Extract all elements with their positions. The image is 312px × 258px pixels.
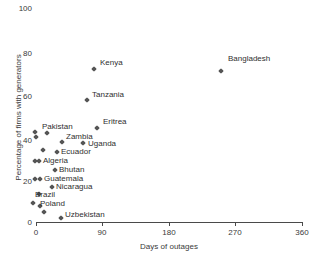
uzbekistan-point (58, 215, 64, 221)
x-tick-label: 90 (87, 228, 117, 237)
poland-point-a (30, 200, 36, 206)
tanzania-point (84, 97, 90, 103)
label-uzbekistan: Uzbekistan (65, 210, 105, 219)
label-bangladesh: Bangladesh (228, 54, 270, 63)
pakistan-point-b (33, 134, 39, 140)
label-nicaragua: Nicaragua (56, 182, 92, 191)
label-kenya: Kenya (100, 58, 123, 67)
y-tick-label: 0 (10, 218, 32, 227)
label-pakistan: Pakistan (42, 122, 73, 131)
x-tick-mark (102, 222, 103, 226)
y-axis-title: Percentage of firms with generators (14, 33, 23, 203)
bhutan-point (52, 167, 58, 173)
guatemala-point-b (37, 176, 43, 182)
uganda-point (80, 140, 86, 146)
label-eritrea: Eritrea (103, 117, 127, 126)
label-brazil: Brazil (35, 190, 55, 199)
y-tick-label: 100 (10, 4, 32, 13)
bangladesh-point (218, 68, 224, 74)
eritrea-point (94, 125, 100, 131)
label-algeria: Algeria (43, 156, 68, 165)
zambia-point (59, 139, 65, 145)
label-uganda: Uganda (88, 139, 116, 148)
x-tick-mark (235, 222, 236, 226)
x-tick-mark (169, 222, 170, 226)
x-tick-label: 180 (154, 228, 184, 237)
scatter-chart: 100806040200 090180270360 BangladeshKeny… (0, 0, 312, 258)
cluster-point-a (40, 147, 46, 153)
x-tick-mark (36, 222, 37, 226)
x-tick-label: 270 (220, 228, 250, 237)
label-bhutan: Bhutan (59, 165, 84, 174)
kenya-point (91, 66, 97, 72)
x-tick-label: 0 (21, 228, 51, 237)
ecuador-point (54, 149, 60, 155)
label-tanzania: Tanzania (92, 90, 124, 99)
algeria-point-b (36, 158, 42, 164)
x-tick-mark (302, 222, 303, 226)
x-tick-label: 360 (287, 228, 312, 237)
label-ecuador: Ecuador (61, 147, 91, 156)
poland-point-c (41, 209, 47, 215)
x-axis-title: Days of outages (36, 242, 302, 251)
nicaragua-point (49, 184, 55, 190)
label-poland: Poland (40, 199, 65, 208)
pakistan-point-c (44, 130, 50, 136)
